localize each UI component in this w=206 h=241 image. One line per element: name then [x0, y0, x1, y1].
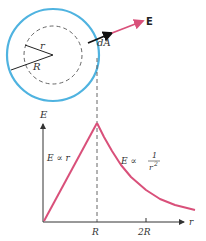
- outside-field-curve: [97, 123, 195, 210]
- svg-text:2: 2: [153, 160, 158, 167]
- x-axis-label: r: [189, 217, 194, 227]
- tick-label-r: R: [91, 227, 99, 237]
- field-vector-arrow: [112, 21, 143, 33]
- field-label: E: [146, 16, 153, 27]
- y-axis-label: E: [39, 109, 48, 120]
- area-element-label: dA: [97, 37, 111, 48]
- inside-field-curve: [44, 123, 97, 221]
- outside-relation-label: E ∝ 1 r 2: [120, 151, 160, 172]
- svg-text:E ∝: E ∝: [120, 156, 137, 166]
- outer-radius-line: [11, 55, 53, 70]
- tick-label-2r: 2R: [137, 227, 151, 237]
- svg-text:1: 1: [152, 151, 157, 160]
- outer-radius-label: R: [32, 61, 41, 72]
- inner-radius-label: r: [40, 40, 46, 51]
- inside-relation-label: E ∝ r: [46, 153, 70, 163]
- charged-sphere: r R dA E: [7, 9, 153, 101]
- inner-radius-line: [25, 45, 53, 55]
- gauss-law-sphere-diagram: r R dA E E r R 2R E ∝ r E ∝ 1 r 2: [0, 0, 206, 241]
- field-vs-radius-graph: E r R 2R E ∝ r E ∝ 1 r 2: [39, 109, 195, 237]
